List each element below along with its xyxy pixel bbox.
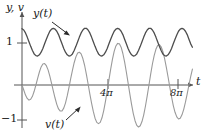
- series-label-v: v(t): [45, 119, 64, 130]
- figure-canvas: y, v t y(t) v(t) 1 −1 4π 8π: [0, 0, 208, 135]
- y-axis-label: y, v: [6, 2, 24, 13]
- x-axis-ticks: [108, 79, 178, 89]
- x-tick-label-8pi: 8π: [170, 88, 183, 98]
- series-label-y: y(t): [33, 8, 52, 19]
- annotation-arrow-v: [66, 106, 81, 120]
- y-tick-label-neg1: −1: [1, 113, 17, 124]
- plot-area: [0, 0, 208, 135]
- curve-y-of-t: [22, 28, 192, 56]
- x-axis-label: t: [196, 76, 200, 87]
- y-tick-label-1: 1: [6, 36, 13, 47]
- x-tick-label-4pi: 4π: [100, 88, 113, 98]
